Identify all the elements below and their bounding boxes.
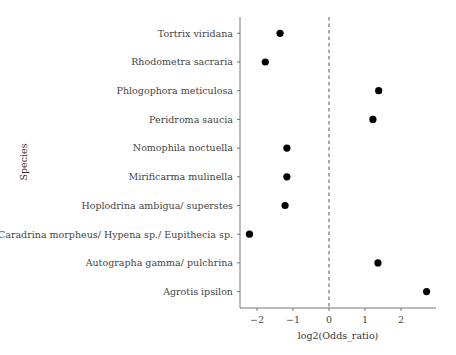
y-tick-label: Mirificarma mulinella [128,171,233,182]
x-tick-label: −1 [286,314,300,325]
y-tick-label: Rhodometra sacraria [131,56,233,67]
y-tick-label: Nomophila noctuella [133,142,234,153]
y-tick-label: Peridroma saucia [149,114,233,125]
data-point [281,202,288,209]
data-point [246,231,253,238]
y-ticks [237,33,240,291]
y-tick-labels: Tortrix viridanaRhodometra sacrariaPhlog… [0,28,233,297]
x-ticks [257,308,401,311]
y-tick-label: Phlogophora meticulosa [117,85,234,96]
y-tick-label: Tortrix viridana [158,28,233,39]
x-tick-labels: −2−1012 [250,314,404,325]
x-tick-label: 1 [362,314,368,325]
x-axis-title: log2(Odds_ratio) [298,330,379,342]
y-tick-label: Hoplodrina ambigua/ superstes [81,200,233,211]
y-tick-label: Agrotis ipsilon [162,286,233,297]
chart: Tortrix viridanaRhodometra sacrariaPhlog… [0,0,456,355]
data-points [246,30,430,296]
data-point [369,116,376,123]
y-tick-label: Autographa gamma/ pulchrina [85,257,234,268]
data-point [375,87,382,94]
x-tick-label: 0 [326,314,332,325]
data-point [262,58,269,65]
data-point [423,288,430,295]
x-tick-label: −2 [250,314,264,325]
data-point [374,259,381,266]
y-axis-title: Species [18,143,29,180]
data-point [283,145,290,152]
x-tick-label: 2 [398,314,404,325]
data-point [283,173,290,180]
data-point [276,30,283,37]
y-tick-label: Caradrina morpheus/ Hypena sp./ Eupithec… [0,229,233,240]
